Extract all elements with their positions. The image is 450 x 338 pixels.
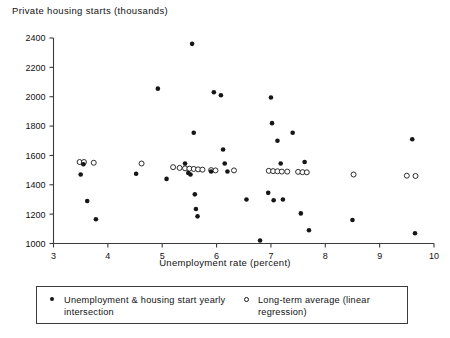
legend-label-yearly-intersection: Unemployment & housing start yearly inte… — [64, 294, 250, 318]
data-point — [413, 231, 418, 236]
data-point — [183, 161, 188, 166]
y-axis: 10001200140016001800200022002400 — [25, 33, 53, 249]
data-point — [222, 161, 227, 166]
y-tick-label: 1800 — [25, 121, 45, 131]
data-point — [285, 169, 290, 174]
data-point — [221, 147, 226, 152]
data-point — [266, 191, 271, 196]
data-point — [200, 167, 205, 172]
y-tick-label: 1400 — [25, 180, 45, 190]
chart-figure: Private housing starts (thousands) 10001… — [0, 0, 450, 338]
y-tick-label: 1600 — [25, 151, 45, 161]
data-point — [139, 161, 144, 166]
x-axis-title: Unemployment rate (percent) — [0, 257, 450, 268]
data-point — [281, 197, 286, 202]
scatter-plot-canvas: 10001200140016001800200022002400 3456789… — [0, 0, 450, 270]
data-point — [299, 211, 304, 216]
data-point — [191, 130, 196, 135]
data-point — [91, 160, 96, 165]
data-point — [413, 173, 418, 178]
y-tick-label: 2200 — [25, 63, 45, 73]
data-point — [209, 169, 214, 174]
y-tick-label: 2400 — [25, 33, 45, 43]
open-circle-marker-icon — [243, 294, 252, 305]
data-point — [404, 173, 409, 178]
data-point — [304, 170, 309, 175]
chart-legend: Unemployment & housing start yearly inte… — [36, 286, 408, 324]
data-point — [164, 177, 169, 182]
data-point — [275, 138, 280, 143]
data-point — [278, 161, 283, 166]
y-tick-label: 1200 — [25, 210, 45, 220]
data-point — [302, 160, 307, 165]
filled-circle-marker-icon — [49, 294, 58, 305]
data-point — [290, 130, 295, 135]
data-point — [258, 238, 263, 243]
data-point — [307, 228, 312, 233]
data-point — [270, 121, 275, 126]
data-point — [81, 162, 86, 167]
data-point — [156, 86, 161, 91]
data-point — [94, 217, 99, 222]
data-point — [269, 95, 274, 100]
plot-area: 10001200140016001800200022002400 3456789… — [0, 0, 450, 270]
data-point — [231, 168, 236, 173]
data-point — [410, 137, 415, 142]
data-point — [225, 169, 230, 174]
legend-entry-long-term-average: Long-term average (linear regression) — [243, 294, 407, 318]
legend-label-long-term-average: Long-term average (linear regression) — [258, 294, 407, 318]
data-point — [244, 197, 249, 202]
y-tick-label: 1000 — [25, 239, 45, 249]
data-point — [213, 168, 218, 173]
data-point — [171, 165, 176, 170]
data-point — [279, 169, 284, 174]
y-tick-label: 2000 — [25, 92, 45, 102]
data-point — [351, 172, 356, 177]
data-point — [177, 165, 182, 170]
series-long-term-average-points — [77, 160, 418, 179]
series-yearly-intersection-points — [78, 42, 417, 243]
data-point — [78, 172, 83, 177]
data-point — [350, 218, 355, 223]
data-point — [212, 90, 217, 95]
data-point — [194, 207, 199, 212]
data-point — [85, 199, 90, 204]
data-point — [134, 171, 139, 176]
data-point — [188, 172, 193, 177]
data-point — [195, 214, 200, 219]
data-point — [219, 93, 224, 98]
data-point — [271, 198, 276, 203]
legend-entry-yearly-intersection: Unemployment & housing start yearly inte… — [49, 294, 250, 318]
data-point — [193, 192, 198, 197]
data-point — [190, 42, 195, 47]
